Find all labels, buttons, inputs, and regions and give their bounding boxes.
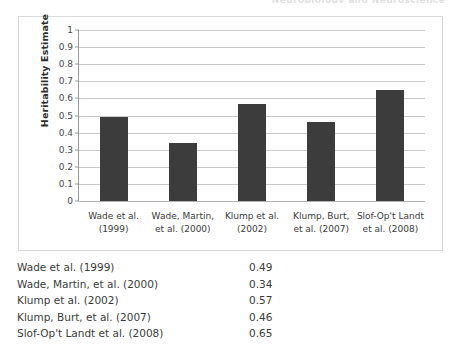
table-cell-value: 0.57 bbox=[249, 294, 272, 306]
table-cell-study: Wade, Martin, et al. (2000) bbox=[17, 278, 249, 290]
y-tick-label: 0.6 bbox=[59, 93, 73, 103]
table-row: Slof-Op't Landt et al. (2008)0.65 bbox=[17, 327, 327, 344]
bar bbox=[238, 104, 266, 201]
x-axis-category-label: Slof-Op't Landtet al. (2008) bbox=[356, 207, 425, 243]
category-label-line2: et al. (2007) bbox=[287, 223, 356, 236]
bar-series bbox=[79, 30, 425, 201]
x-axis-category-labels: Wade et al.(1999)Wade, Martin,et al. (20… bbox=[79, 207, 425, 243]
table-cell-study: Klump et al. (2002) bbox=[17, 294, 249, 306]
category-label-line2: et al. (2008) bbox=[356, 223, 425, 236]
table-row: Wade, Martin, et al. (2000)0.34 bbox=[17, 278, 327, 295]
running-head: Neurobiology and Neuroscience bbox=[272, 0, 445, 3]
gridline bbox=[79, 201, 425, 202]
x-axis-category-label: Wade, Martin,et al. (2000) bbox=[148, 207, 217, 243]
y-tick-label: 0.1 bbox=[59, 179, 73, 189]
y-axis-title: Heritability Estimate bbox=[39, 8, 50, 134]
y-tick-label: 0.7 bbox=[59, 76, 73, 86]
bar bbox=[100, 117, 128, 201]
data-table: Wade et al. (1999)0.49Wade, Martin, et a… bbox=[17, 261, 327, 344]
figure-page: Neurobiology and Neuroscience Heritabili… bbox=[0, 0, 457, 345]
table-cell-study: Slof-Op't Landt et al. (2008) bbox=[17, 327, 249, 339]
category-label-line2: et al. (2000) bbox=[148, 223, 217, 236]
category-label-line1: Wade, Martin, bbox=[152, 211, 214, 221]
y-tick-label: 0 bbox=[67, 196, 73, 206]
category-label-line1: Slof-Op't Landt bbox=[357, 211, 424, 221]
category-label-line1: Wade et al. bbox=[88, 211, 139, 221]
y-tick-label: 0.4 bbox=[59, 128, 73, 138]
y-tick-label: 0.2 bbox=[59, 162, 73, 172]
table-cell-value: 0.49 bbox=[249, 261, 272, 273]
plot-area: 10.90.80.70.60.50.40.30.20.10 bbox=[79, 30, 425, 201]
category-label-line1: Klump et al. bbox=[225, 211, 279, 221]
bar bbox=[376, 90, 404, 201]
bar bbox=[307, 122, 335, 201]
table-row: Klump et al. (2002)0.57 bbox=[17, 294, 327, 311]
table-cell-study: Wade et al. (1999) bbox=[17, 261, 249, 273]
table-cell-value: 0.65 bbox=[249, 327, 272, 339]
x-axis-category-label: Klump, Burt,et al. (2007) bbox=[287, 207, 356, 243]
category-label-line1: Klump, Burt, bbox=[293, 211, 349, 221]
bar bbox=[169, 143, 197, 201]
table-cell-value: 0.46 bbox=[249, 311, 272, 323]
table-cell-value: 0.34 bbox=[249, 278, 272, 290]
y-tick-label: 0.3 bbox=[59, 145, 73, 155]
x-axis-category-label: Klump et al.(2002) bbox=[217, 207, 286, 243]
y-tick-label: 1 bbox=[67, 25, 73, 35]
category-label-line2: (2002) bbox=[217, 223, 286, 236]
table-row: Wade et al. (1999)0.49 bbox=[17, 261, 327, 278]
table-cell-study: Klump, Burt, et al. (2007) bbox=[17, 311, 249, 323]
y-tick-label: 0.8 bbox=[59, 59, 73, 69]
x-axis-category-label: Wade et al.(1999) bbox=[79, 207, 148, 243]
table-row: Klump, Burt, et al. (2007)0.46 bbox=[17, 311, 327, 328]
y-tick-label: 0.9 bbox=[59, 42, 73, 52]
y-tick-label: 0.5 bbox=[59, 111, 73, 121]
category-label-line2: (1999) bbox=[79, 223, 148, 236]
chart-figure: Heritability Estimate 10.90.80.70.60.50.… bbox=[18, 16, 443, 251]
